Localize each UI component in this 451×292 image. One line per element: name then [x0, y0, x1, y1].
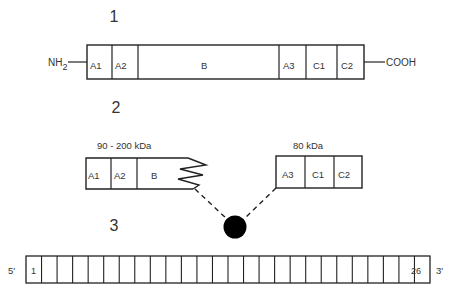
light-domain-a3: A3	[282, 169, 294, 180]
panel-3-number: 3	[110, 217, 119, 234]
domain-b: B	[201, 60, 207, 71]
exon-last: 26	[411, 266, 421, 276]
five-prime-label: 5'	[8, 265, 15, 276]
domain-a2: A2	[115, 60, 127, 71]
light-chain-mass: 80 kDa	[293, 140, 324, 151]
c-terminus-label: COOH	[386, 57, 416, 68]
domain-c2: C2	[341, 60, 353, 71]
heavy-domain-a2: A2	[114, 170, 126, 181]
light-domain-c1: C1	[312, 169, 324, 180]
light-chain: 80 kDa A3 C1 C2	[276, 140, 362, 188]
three-prime-label: 3'	[436, 265, 443, 276]
domain-a3: A3	[283, 60, 295, 71]
light-domain-c2: C2	[338, 169, 350, 180]
heavy-domain-b: B	[151, 170, 157, 181]
domain-a1: A1	[90, 60, 102, 71]
heavy-chain: 90 - 200 kDa A1 A2 B	[86, 140, 206, 189]
heavy-domain-a1: A1	[88, 170, 100, 181]
metal-ion-dot	[224, 216, 247, 239]
factor-viii-diagram: 1 NH2 A1 A2 B A3 C1 C2 COOH 2 90 - 200 k…	[0, 0, 451, 292]
panel-2-number: 2	[112, 99, 121, 116]
metal-ion-linker	[195, 188, 276, 239]
panel-1-number: 1	[110, 8, 119, 25]
domain-c1: C1	[313, 60, 325, 71]
gene-exon-strip: 5' 1 26 3'	[8, 256, 443, 283]
n-terminus-label: NH2	[48, 57, 67, 72]
panel-1-protein: NH2 A1 A2 B A3 C1 C2 COOH	[48, 45, 416, 79]
exon-first: 1	[31, 266, 36, 276]
heavy-chain-mass: 90 - 200 kDa	[97, 140, 152, 151]
